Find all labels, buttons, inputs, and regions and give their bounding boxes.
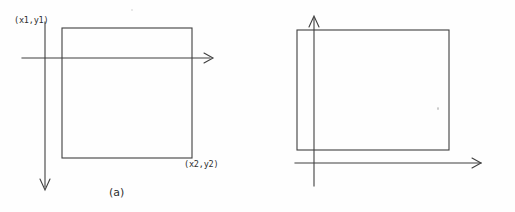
coord-label-x2y2-a: (x2,y2)	[184, 160, 218, 169]
coord-label-x1y1-a: (x1,y1)	[14, 16, 48, 25]
figure-caption-a: (a)	[109, 187, 124, 198]
figure-b-drawing	[257, 0, 515, 212]
rectangle-a	[62, 28, 192, 158]
rectangle-b	[297, 30, 449, 150]
scan-speck	[437, 107, 439, 110]
scan-speck	[131, 9, 133, 11]
figure-a-drawing	[0, 0, 258, 212]
figure-panel-b: (x2,y2) (x1,y1) (b)	[257, 0, 515, 212]
figure-sheet: (x1,y1) (x2,y2) (a) (x2,y2) (x1	[0, 0, 515, 212]
figure-panel-a: (x1,y1) (x2,y2) (a)	[0, 0, 258, 212]
